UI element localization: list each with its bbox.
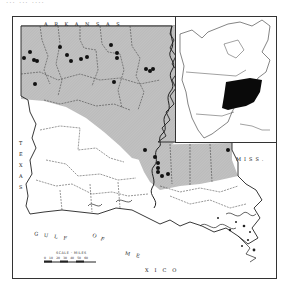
scale-tick: 50	[77, 256, 81, 260]
locality-dot	[112, 80, 116, 84]
locality-dot	[151, 67, 155, 71]
locality-dot	[226, 148, 230, 152]
locality-dot	[79, 57, 83, 61]
locality-dot	[58, 45, 62, 49]
locality-dot	[65, 53, 69, 57]
north-america-inset	[176, 17, 277, 143]
range-map-figure: ... ... ....	[0, 0, 288, 293]
scale-tick: 30	[63, 256, 67, 260]
locality-dot	[166, 172, 170, 176]
label-mississippi: MISS.	[236, 156, 266, 162]
label-xico: XICO	[145, 267, 182, 273]
locality-dot	[144, 67, 148, 71]
locality-dot	[156, 166, 160, 170]
locality-dot	[28, 50, 32, 54]
locality-dot	[160, 174, 164, 178]
scale-tick: 20	[56, 256, 60, 260]
scale-tick: 0	[44, 256, 46, 260]
label-arkansas: ARKANSAS	[44, 21, 126, 27]
locality-dot	[153, 155, 157, 159]
locality-dot	[156, 170, 160, 174]
label-texas: TEXAS	[19, 138, 25, 193]
scale-ticks: 0 10 20 30 40 50 60	[44, 256, 88, 260]
locality-dot	[143, 148, 147, 152]
louisiana-map	[0, 0, 288, 293]
scale-tick: 40	[70, 256, 74, 260]
locality-dot	[115, 51, 119, 55]
locality-dot	[85, 55, 89, 59]
locality-dot	[33, 82, 37, 86]
locality-dot	[156, 161, 160, 165]
scale-tick: 10	[49, 256, 53, 260]
locality-dot	[109, 43, 113, 47]
locality-dot	[22, 56, 26, 60]
scale-title: SCALE · MILES	[56, 251, 87, 255]
locality-dot	[69, 59, 73, 63]
locality-dot	[35, 59, 39, 63]
scale-tick: 60	[84, 256, 88, 260]
locality-dot	[115, 56, 119, 60]
